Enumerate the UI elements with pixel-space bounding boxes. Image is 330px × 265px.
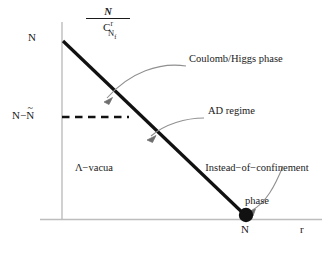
instead-of-confinement-line2: phase [192,195,322,206]
curve-label-fraction: N Cr Nf [86,6,130,32]
instead-of-confinement-line1: Instead−of−confinement [192,162,322,173]
phase-diagram-figure: N Cr Nf N N−~N Coulomb/Higgs phase AD re… [0,0,330,265]
region-label-ad-regime: AD regime [208,105,255,116]
coulomb-higgs-leader-arrowhead [104,98,113,105]
x-axis-label: r [300,224,304,236]
fraction-denominator-subscript-group: Nf [108,29,116,40]
region-label-lambda-vacua: Λ−vacua [75,162,113,173]
ad-regime-leader-arrowhead [147,136,156,143]
fraction-denominator: Cr Nf [86,19,130,33]
y-tick-label-prefix: N− [12,109,26,121]
fraction-denominator-superscript: r [110,19,113,28]
x-tick-label-N: N [241,224,249,236]
y-tick-label-N-minus-Ntilde: N−~N [12,110,34,122]
region-label-coulomb-higgs-phase: Coulomb/Higgs phase [189,53,283,64]
tilde-accent-icon: ~ [26,103,34,113]
region-label-instead-of-confinement-phase: Instead−of−confinement phase [192,140,322,228]
y-tick-label-tilde-group: ~N [26,110,34,122]
fraction-denominator-subscript-sub: f [114,32,116,39]
y-tick-label-N: N [28,32,36,44]
fraction-numerator: N [86,6,130,19]
